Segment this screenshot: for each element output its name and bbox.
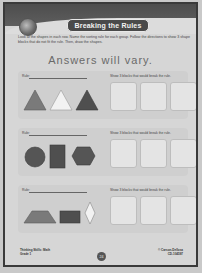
footer-right: © Carson-Dellosa CD-104597 <box>158 248 183 256</box>
shape-group-mixed <box>22 141 106 169</box>
rule-answer-line[interactable] <box>29 135 87 136</box>
triangle-medium-gray-icon <box>24 90 46 110</box>
shape-row-3: Rule: Show 3 blocks that would break the… <box>18 185 188 233</box>
row-prompt: Show 3 blocks that would break the rule. <box>110 188 171 192</box>
block-slot-2[interactable] <box>140 139 167 168</box>
block-slot-1[interactable] <box>110 196 137 225</box>
rule-answer-line[interactable] <box>29 78 87 79</box>
triangle-white-icon <box>50 90 72 110</box>
shape-group-quadrilaterals <box>22 198 106 226</box>
row-prompt: Show 3 blocks that would break the rule. <box>110 74 171 78</box>
page-number: 24 <box>97 252 106 261</box>
worksheet-page: Breaking the Rules Look at the shapes in… <box>3 2 198 267</box>
shape-row-2: Rule: Show 3 blocks that would break the… <box>18 128 188 176</box>
shape-row-1: Rule: Show 3 blocks that would break the… <box>18 71 188 119</box>
trapezoid-icon <box>24 211 56 223</box>
footer-grade: Grade 1 <box>20 252 50 256</box>
block-slot-1[interactable] <box>110 82 137 111</box>
block-slot-2[interactable] <box>140 196 167 225</box>
rule-answer-line[interactable] <box>29 192 87 193</box>
answer-note: Answers will vary. <box>5 54 196 66</box>
row-prompt: Show 3 blocks that would break the rule. <box>110 131 171 135</box>
rhombus-icon <box>85 202 95 224</box>
circle-icon <box>25 147 45 167</box>
footer-left: Thinking Skills: Math Grade 1 <box>20 248 50 256</box>
instructions-text: Look at the shapes in each row. Name the… <box>18 35 190 44</box>
block-slot-3[interactable] <box>170 196 197 225</box>
block-slot-3[interactable] <box>170 82 197 111</box>
page-title: Breaking the Rules <box>67 19 149 32</box>
triangle-dark-gray-icon <box>76 90 98 110</box>
shape-group-triangles <box>22 84 106 112</box>
hexagon-icon <box>72 147 95 165</box>
globe-icon <box>19 18 37 36</box>
block-slot-1[interactable] <box>110 139 137 168</box>
block-slot-3[interactable] <box>170 139 197 168</box>
rectangle-icon <box>50 145 65 168</box>
rectangle-icon <box>60 211 80 223</box>
footer-product-code: CD-104597 <box>158 252 183 256</box>
block-slot-2[interactable] <box>140 82 167 111</box>
